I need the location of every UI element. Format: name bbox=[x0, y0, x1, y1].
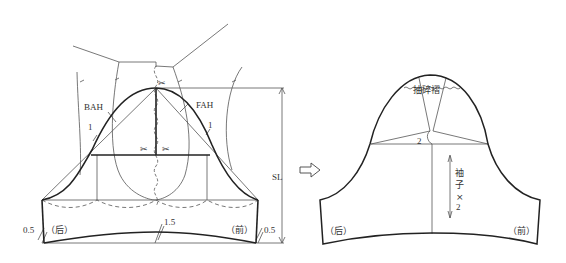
scissors-right-icon: ✂ bbox=[162, 144, 170, 154]
bah-label: BAH bbox=[84, 102, 104, 112]
sleeve-x2-line4: 2 bbox=[456, 202, 461, 212]
gather-label: 抽碎褶 bbox=[413, 84, 440, 95]
sleeve-x2-line2: 子 bbox=[455, 180, 464, 190]
scissors-left-icon: ✂ bbox=[140, 144, 148, 154]
ease-right-label: 0.5 bbox=[264, 225, 276, 235]
sleeve-x2-line1: 袖 bbox=[455, 167, 464, 178]
right-front-label: （前） bbox=[508, 225, 535, 236]
ease-left-label: 0.5 bbox=[23, 225, 35, 235]
offset-left-label: 1 bbox=[88, 122, 93, 132]
fah-label: FAH bbox=[196, 100, 214, 110]
front-label: （前） bbox=[226, 224, 253, 235]
hem-curve-label: 1.5 bbox=[164, 217, 176, 227]
sleeve-pattern-diagram: BAH FAH SL 1 1 0.5 0.5 1.5 （后） （前） ✂ ✂ ✂… bbox=[0, 0, 566, 263]
hollow-right-arrow-icon bbox=[300, 163, 320, 177]
scissors-top-icon: ✂ bbox=[158, 78, 166, 88]
right-sleeve-outline bbox=[320, 75, 540, 244]
left-sleeve-draft bbox=[38, 24, 285, 243]
left-sleeve-bold bbox=[42, 88, 258, 243]
offset-right-label: 1 bbox=[208, 120, 213, 130]
spread-label: 2 bbox=[417, 136, 422, 146]
right-back-label: （后） bbox=[325, 226, 352, 236]
sl-label: SL bbox=[272, 172, 283, 182]
sleeve-x2-line3: × bbox=[456, 192, 464, 202]
back-label: （后） bbox=[46, 225, 73, 235]
